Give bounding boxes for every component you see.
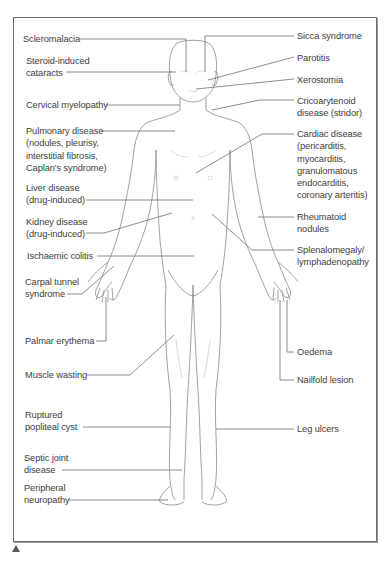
figure-marker-triangle-icon xyxy=(12,545,20,552)
label-parotitis: Parotitis xyxy=(297,52,330,64)
label-cricoarytenoid-disease: Cricoarytenoid disease (stridor) xyxy=(297,95,362,120)
label-xerostomia: Xerostomia xyxy=(297,74,343,86)
label-cervical-myelopathy: Cervical myelopathy xyxy=(26,99,108,111)
body-outline xyxy=(88,40,298,505)
label-splenomegaly-lymphadenopathy: Splenalomegaly/ lymphadenopathy xyxy=(297,244,369,269)
label-sicca-syndrome: Sicca syndrome xyxy=(297,30,362,42)
body-details xyxy=(170,71,216,378)
label-ruptured-popliteal-cyst: Ruptured popliteal cyst xyxy=(25,409,77,434)
label-palmar-erythema: Palmar erythema xyxy=(25,335,94,347)
label-ischaemic-colitis: Ischaemic colitis xyxy=(27,250,93,262)
label-carpal-tunnel-syndrome: Carpal tunnel syndrome xyxy=(25,276,79,301)
label-rheumatoid-nodules: Rheumatoid nodules xyxy=(297,211,346,236)
label-septic-joint-disease: Septic joint disease xyxy=(24,452,68,477)
label-muscle-wasting: Muscle wasting xyxy=(25,369,87,381)
label-scleromalacia: Scleromalacia xyxy=(23,33,80,45)
label-liver-disease: Liver disease (drug-induced) xyxy=(26,182,85,207)
label-cardiac-disease: Cardiac disease (pericarditis, myocardit… xyxy=(297,128,367,202)
label-peripheral-neuropathy: Peripheral neuropathy xyxy=(24,482,70,507)
label-leg-ulcers: Leg ulcers xyxy=(297,423,339,435)
label-pulmonary-disease: Pulmonary disease (nodules, pleurisy, in… xyxy=(26,125,107,174)
label-oedema: Oedema xyxy=(297,346,332,358)
label-kidney-disease: Kidney disease (drug-induced) xyxy=(26,216,88,241)
label-steroid-induced-cataracts: Steroid-induced cataracts xyxy=(26,55,90,80)
label-nailfold-lesion: Nailfold lesion xyxy=(297,374,353,386)
